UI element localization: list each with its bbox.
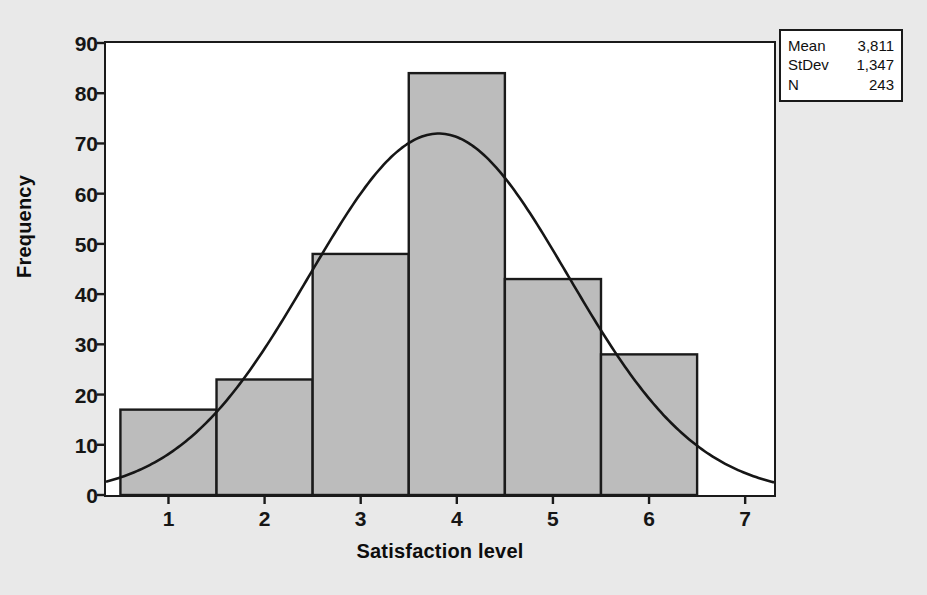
plot-area <box>104 41 776 497</box>
statistics-row: N243 <box>788 75 894 94</box>
histogram-bars <box>120 73 697 495</box>
y-axis-tick-label: 60 <box>52 183 98 204</box>
x-axis-tick-label: 6 <box>629 508 669 529</box>
y-axis-tick-label: 50 <box>52 233 98 254</box>
y-axis-title: Frequency <box>13 147 36 307</box>
statistic-label: StDev <box>788 55 843 74</box>
statistic-value: 3,811 <box>843 36 894 55</box>
y-axis-tick-labels: 0102030405060708090 <box>40 41 98 497</box>
y-axis-tick-label: 10 <box>52 434 98 455</box>
x-axis-ticks <box>168 495 745 504</box>
statistic-label: Mean <box>788 36 843 55</box>
histogram-bar <box>313 254 409 495</box>
x-axis-tick-label: 3 <box>341 508 381 529</box>
statistic-value: 243 <box>843 75 894 94</box>
x-axis-tick-labels: 1234567 <box>104 508 776 536</box>
x-axis-tick-label: 1 <box>148 508 188 529</box>
statistics-row: StDev1,347 <box>788 55 894 74</box>
statistics-row: Mean3,811 <box>788 36 894 55</box>
histogram-bar <box>505 279 601 495</box>
y-axis-tick-label: 30 <box>52 334 98 355</box>
statistics-table: Mean3,811StDev1,347N243 <box>788 36 894 94</box>
statistic-value: 1,347 <box>843 55 894 74</box>
y-axis-tick-label: 90 <box>52 33 98 54</box>
statistics-legend-box: Mean3,811StDev1,347N243 <box>779 29 903 102</box>
y-axis-tick-label: 80 <box>52 83 98 104</box>
x-axis-title: Satisfaction level <box>104 540 776 563</box>
x-axis-tick-label: 7 <box>725 508 765 529</box>
y-axis-tick-label: 20 <box>52 384 98 405</box>
y-axis-tick-label: 0 <box>52 485 98 506</box>
histogram-figure: 0102030405060708090 Frequency 1234567 Sa… <box>0 0 927 595</box>
chart-canvas <box>106 43 774 495</box>
y-axis-tick-label: 40 <box>52 284 98 305</box>
y-axis-ticks <box>97 43 106 495</box>
statistic-label: N <box>788 75 843 94</box>
x-axis-tick-label: 2 <box>245 508 285 529</box>
y-axis-tick-label: 70 <box>52 133 98 154</box>
x-axis-tick-label: 5 <box>533 508 573 529</box>
histogram-bar <box>601 354 697 495</box>
histogram-bar <box>120 410 216 495</box>
x-axis-tick-label: 4 <box>437 508 477 529</box>
